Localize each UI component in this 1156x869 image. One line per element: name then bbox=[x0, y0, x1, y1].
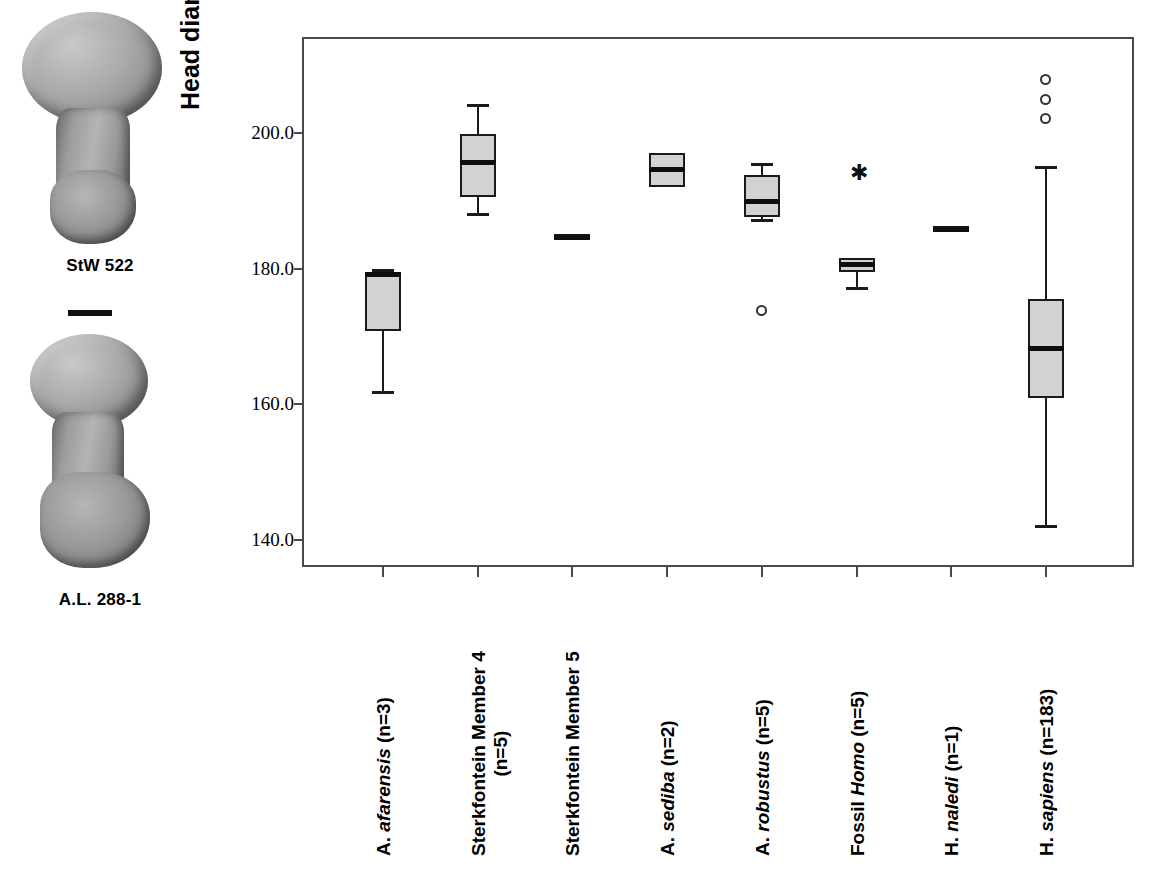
boxplot-upper-whisker bbox=[477, 104, 479, 135]
boxplot-lower-whisker-cap bbox=[372, 391, 394, 394]
y-tick-label: 140.0 bbox=[251, 529, 294, 551]
y-axis-title: Head diameter/Neck breadth *100 bbox=[176, 0, 205, 110]
x-tick-mark bbox=[666, 567, 668, 577]
x-tick-mark bbox=[761, 567, 763, 577]
boxplot-outlier-marker bbox=[756, 305, 767, 316]
boxplot-median-line bbox=[839, 262, 875, 267]
y-tick-mark bbox=[294, 403, 303, 405]
boxplot-median-line bbox=[744, 199, 780, 204]
boxplot-median-line bbox=[460, 160, 496, 165]
x-label-fossil-homo: Fossil Homo (n=5) bbox=[847, 691, 869, 856]
y-axis-tick-labels: 200.0180.0160.0140.0 bbox=[228, 0, 294, 869]
boxplot-median-line bbox=[1028, 346, 1064, 351]
boxplot-box bbox=[744, 175, 780, 217]
x-tick-mark bbox=[382, 567, 384, 577]
y-tick-mark bbox=[294, 132, 303, 134]
x-tick-mark bbox=[950, 567, 952, 577]
boxplot-upper-whisker bbox=[1045, 166, 1047, 298]
boxplot-lower-whisker-cap bbox=[751, 219, 773, 222]
x-label-a-robustus: A. robustus (n=5) bbox=[752, 699, 774, 856]
boxplot-lower-whisker-cap bbox=[467, 213, 489, 216]
boxplot-single-value-line bbox=[554, 234, 590, 240]
y-tick-label: 200.0 bbox=[251, 122, 294, 144]
x-label-h-naledi: H. naledi (n=1) bbox=[941, 726, 963, 856]
boxplot-box bbox=[460, 134, 496, 196]
boxplot-lower-whisker bbox=[382, 331, 384, 394]
x-label-a-sediba: A. sediba (n=2) bbox=[657, 720, 679, 856]
x-tick-mark bbox=[571, 567, 573, 577]
x-label-h-sapiens: H. sapiens (n=183) bbox=[1036, 689, 1058, 856]
y-tick-label: 160.0 bbox=[251, 393, 294, 415]
y-tick-mark bbox=[294, 268, 303, 270]
x-label-a-afarensis: A. afarensis (n=3) bbox=[373, 697, 395, 856]
boxplot-lower-whisker-cap bbox=[1035, 525, 1057, 528]
boxplot-lower-whisker-cap bbox=[846, 287, 868, 290]
boxplot-median-line bbox=[649, 167, 685, 172]
x-label-sterkfontein-member-4: Sterkfontein Member 4(n=5) bbox=[468, 651, 513, 856]
boxplot-lower-whisker bbox=[1045, 398, 1047, 528]
boxplot-outlier-marker bbox=[1040, 113, 1051, 124]
x-label-sterkfontein-member-5: Sterkfontein Member 5 bbox=[562, 651, 584, 856]
boxplot-upper-whisker-cap bbox=[751, 163, 773, 166]
x-tick-mark bbox=[856, 567, 858, 577]
plot-frame bbox=[302, 37, 1134, 567]
x-tick-mark bbox=[477, 567, 479, 577]
boxplot-upper-whisker-cap bbox=[1035, 166, 1057, 169]
boxplot-box bbox=[365, 273, 401, 331]
boxplot-extreme-marker: ✱ bbox=[850, 162, 868, 184]
boxplot-upper-whisker-cap bbox=[467, 104, 489, 107]
y-tick-label: 180.0 bbox=[251, 258, 294, 280]
boxplot-single-value-line bbox=[933, 226, 969, 232]
boxplot-chart: Head diameter/Neck breadth *100 200.0180… bbox=[0, 0, 1156, 869]
boxplot-median-line bbox=[365, 272, 401, 277]
y-tick-mark bbox=[294, 539, 303, 541]
x-tick-mark bbox=[1045, 567, 1047, 577]
